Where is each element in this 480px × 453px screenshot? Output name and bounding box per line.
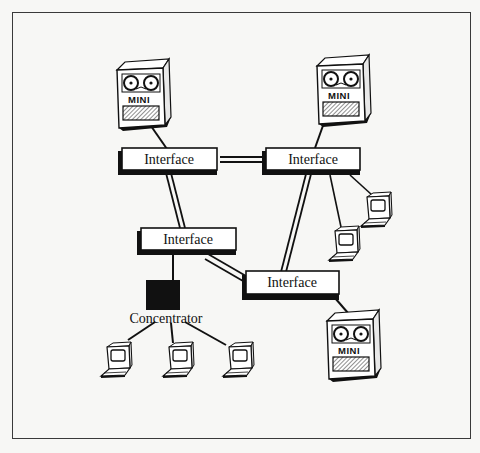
mini-computer-top-left: MINI: [117, 59, 171, 131]
link-interface-tr-to-br: [281, 174, 311, 272]
link-interface-tr-to-terminal-upper: [350, 175, 372, 195]
terminal-bottom-2: [163, 342, 194, 378]
terminal-right-upper: [361, 192, 392, 228]
interface-top-left: Interface: [118, 148, 217, 175]
terminal-right-lower: [329, 226, 360, 262]
mini-label: MINI: [338, 345, 360, 356]
terminal-bottom-1: [101, 342, 132, 378]
mini-computer-top-right: MINI: [317, 55, 371, 127]
network-diagram: MINI MINI MINI Interface Interface Inter…: [0, 0, 480, 453]
concentrator: Concentrator: [129, 280, 202, 326]
link-interface-tr-to-terminal-lower: [330, 175, 341, 227]
interface-bottom-right: Interface: [242, 271, 339, 300]
interface-label: Interface: [288, 152, 338, 167]
mini-computer-bottom-right: MINI: [327, 310, 381, 382]
interface-label: Interface: [267, 275, 317, 290]
link-interface-tl-to-ml: [166, 173, 185, 228]
link-interface-tl-to-tr: [220, 157, 262, 162]
link-interface-br-to-mini-br: [335, 298, 348, 313]
terminal-bottom-3: [223, 342, 254, 378]
interface-label: Interface: [163, 232, 213, 247]
link-concentrator-to-terminal-2: [171, 323, 173, 343]
interface-middle-left: Interface: [137, 228, 236, 255]
interface-top-right: Interface: [262, 148, 360, 175]
mini-label: MINI: [128, 94, 150, 105]
concentrator-label: Concentrator: [129, 311, 202, 326]
interface-label: Interface: [144, 152, 194, 167]
link-mini-tl-to-interface-tl: [151, 126, 167, 149]
link-interface-ml-to-br: [205, 254, 246, 281]
concentrator-box: [146, 280, 180, 310]
mini-label: MINI: [328, 90, 350, 101]
